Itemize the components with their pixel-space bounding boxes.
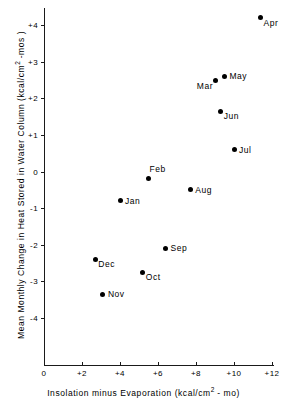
data-point-label: May <box>230 71 248 81</box>
y-tick-mark <box>41 208 45 209</box>
x-tick-mark <box>234 362 235 366</box>
x-tick-mark <box>44 362 45 366</box>
x-axis-line <box>44 365 274 366</box>
y-tick-mark <box>41 98 45 99</box>
x-tick-label: +2 <box>77 369 87 378</box>
y-tick-label: 0 <box>33 167 38 176</box>
data-point-label: Oct <box>146 272 161 282</box>
x-tick-label: +4 <box>115 369 125 378</box>
y-tick-label: +3 <box>28 57 38 66</box>
y-tick-label: +4 <box>28 21 38 30</box>
y-tick-label: +1 <box>28 130 38 139</box>
data-point-marker <box>222 74 227 79</box>
data-point-label: Sep <box>171 243 188 253</box>
y-tick-mark <box>41 172 45 173</box>
y-tick-label: -2 <box>30 240 38 249</box>
data-point-marker <box>232 147 237 152</box>
x-tick-label: +10 <box>227 369 242 378</box>
y-tick-mark <box>41 62 45 63</box>
data-point-label: Dec <box>98 259 115 269</box>
data-point-marker <box>163 246 168 251</box>
data-point-marker <box>213 78 218 83</box>
y-tick-label: +2 <box>28 94 38 103</box>
data-point-marker <box>100 292 105 297</box>
x-tick-mark <box>82 362 83 366</box>
y-tick-mark <box>41 318 45 319</box>
x-tick-mark <box>272 362 273 366</box>
y-tick-mark <box>41 25 45 26</box>
x-tick-label: 0 <box>42 369 47 378</box>
y-tick-label: -4 <box>30 313 38 322</box>
y-tick-mark <box>41 135 45 136</box>
scatter-plot-figure: 0+2+4+6+8+10+12 +4+3+2+10-1-2-3-4 AprMay… <box>0 0 287 413</box>
data-point-marker <box>218 109 223 114</box>
y-axis-title: Mean Monthly Change in Heat Stored in Wa… <box>14 20 26 350</box>
data-point-marker <box>118 198 123 203</box>
superscript-two: 2 <box>14 61 21 65</box>
x-tick-label: +6 <box>153 369 163 378</box>
y-tick-mark <box>41 281 45 282</box>
data-point-label: Jun <box>224 111 239 121</box>
x-tick-mark <box>196 362 197 366</box>
data-point-marker <box>93 257 98 262</box>
data-point-marker <box>146 176 151 181</box>
data-point-marker <box>140 270 145 275</box>
y-tick-label: -1 <box>30 204 38 213</box>
x-tick-mark <box>120 362 121 366</box>
x-tick-label: +8 <box>191 369 201 378</box>
y-tick-mark <box>41 245 45 246</box>
data-point-label: Jul <box>239 145 251 155</box>
data-point-label: Jan <box>125 196 140 206</box>
data-point-label: Aug <box>195 185 212 195</box>
data-point-marker <box>188 187 193 192</box>
x-tick-mark <box>158 362 159 366</box>
y-tick-label: -3 <box>30 277 38 286</box>
superscript-two: 2 <box>211 386 215 393</box>
data-point-label: Nov <box>108 289 125 299</box>
data-point-label: Mar <box>197 81 213 91</box>
data-point-marker <box>258 15 263 20</box>
data-point-label: Feb <box>150 164 166 174</box>
data-point-label: Apr <box>264 18 279 28</box>
x-axis-title: Insolation minus Evaporation (kcal/cm2 -… <box>0 386 287 398</box>
x-tick-label: +12 <box>265 369 280 378</box>
